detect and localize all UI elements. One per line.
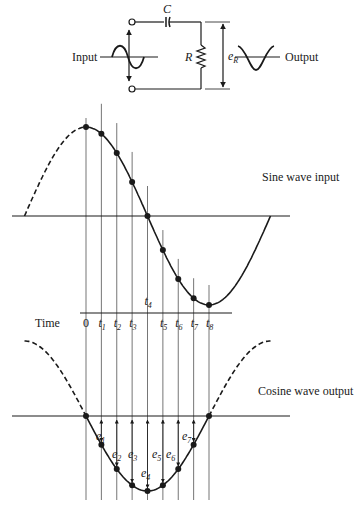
top-terminal — [129, 19, 135, 25]
e-label: e1 — [96, 429, 105, 445]
time-tick-label: t6 — [175, 316, 182, 332]
resistor-label: R — [184, 50, 193, 64]
bottom-terminal — [129, 86, 135, 92]
input-label: Input — [72, 50, 98, 64]
output-label: Output — [285, 50, 319, 64]
e-label: e3 — [128, 447, 137, 463]
time-axis-label: Time — [35, 316, 60, 330]
cosine-panel-label: Cosine wave output — [258, 384, 354, 398]
cosine-dashed-lead — [25, 341, 87, 416]
rc-differentiator-diagram: C R eR Input Output Sine wave input Time… — [0, 0, 356, 507]
time-tick-label: t7 — [191, 316, 199, 332]
capacitor-label: C — [163, 2, 172, 16]
sine-panel-label: Sine wave input — [262, 170, 340, 184]
e-label: e4 — [141, 466, 150, 482]
resistor-zigzag — [197, 45, 205, 68]
e-label: e6 — [166, 447, 175, 463]
output-cosine-icon — [238, 46, 274, 70]
time-tick-label: t1 — [98, 316, 105, 332]
sine-panel — [12, 124, 290, 308]
time-tick-label: t8 — [206, 316, 213, 332]
time-tick-label: t5 — [160, 316, 167, 332]
cosine-dashed-trail — [209, 341, 271, 416]
time-tick-label: t3 — [129, 316, 136, 332]
sine-dashed-lead — [25, 127, 87, 216]
output-voltage-label: eR — [228, 49, 238, 65]
cosine-panel — [12, 341, 290, 494]
time-tick-label: t2 — [114, 316, 121, 332]
e-label: e7 — [182, 429, 192, 445]
e-label: e5 — [152, 447, 161, 463]
time-tick-label: t4 — [145, 294, 152, 310]
